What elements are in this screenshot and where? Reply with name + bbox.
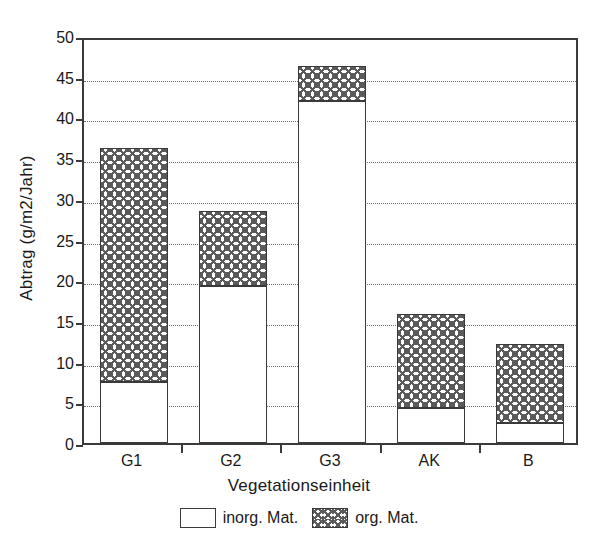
stacked-bar (199, 211, 267, 443)
x-axis-tick-label: G2 (196, 452, 266, 470)
x-axis-title: Vegetationseinheit (0, 476, 598, 496)
y-axis-tick-label: 20 (34, 274, 74, 290)
y-axis-tick-label: 5 (34, 396, 74, 412)
bar-segment-inorg (298, 101, 366, 443)
x-axis-tick-label: G3 (295, 452, 365, 470)
legend-label: org. Mat. (355, 509, 418, 527)
x-axis-tick-mark (280, 445, 282, 453)
bar-segment-org (496, 344, 564, 423)
legend-label: inorg. Mat. (223, 509, 299, 527)
stacked-bar (298, 66, 366, 443)
bar-segment-org (397, 314, 465, 408)
x-axis-tick-mark (380, 445, 382, 453)
bar-segment-inorg (397, 408, 465, 443)
legend-swatch-org-icon (312, 508, 348, 528)
x-axis-tick-label: B (493, 452, 563, 470)
plot-area (82, 38, 578, 445)
y-axis-tick-label: 25 (34, 234, 74, 250)
y-axis-tick-label: 30 (34, 193, 74, 209)
y-axis-tick-label: 35 (34, 152, 74, 168)
y-axis-tick-mark (76, 445, 83, 447)
x-axis-tick-label: AK (394, 452, 464, 470)
chart-legend: inorg. Mat.org. Mat. (0, 508, 598, 528)
bar-segment-inorg (496, 423, 564, 443)
bar-segment-org (199, 211, 267, 286)
stacked-bar (100, 148, 168, 443)
y-axis-tick-label: 45 (34, 71, 74, 87)
x-axis-tick-mark (181, 445, 183, 453)
y-axis-tick-label: 40 (34, 111, 74, 127)
legend-swatch-inorg-icon (180, 508, 216, 528)
x-axis-tick-label: G1 (97, 452, 167, 470)
bar-segment-org (100, 148, 168, 382)
y-axis-tick-label: 50 (34, 30, 74, 46)
bar-segment-org (298, 66, 366, 101)
legend-entry: inorg. Mat. (180, 508, 299, 528)
chart-figure: Abtrag (g/m2/Jahr) 05101520253035404550 … (0, 0, 598, 544)
bar-segment-inorg (199, 286, 267, 443)
stacked-bar (496, 344, 564, 443)
y-axis-tick-label: 0 (34, 437, 74, 453)
y-axis-tick-label: 15 (34, 315, 74, 331)
legend-entry: org. Mat. (312, 508, 418, 528)
y-axis-tick-label: 10 (34, 356, 74, 372)
bar-segment-inorg (100, 382, 168, 443)
stacked-bar (397, 314, 465, 443)
x-axis-tick-mark (479, 445, 481, 453)
